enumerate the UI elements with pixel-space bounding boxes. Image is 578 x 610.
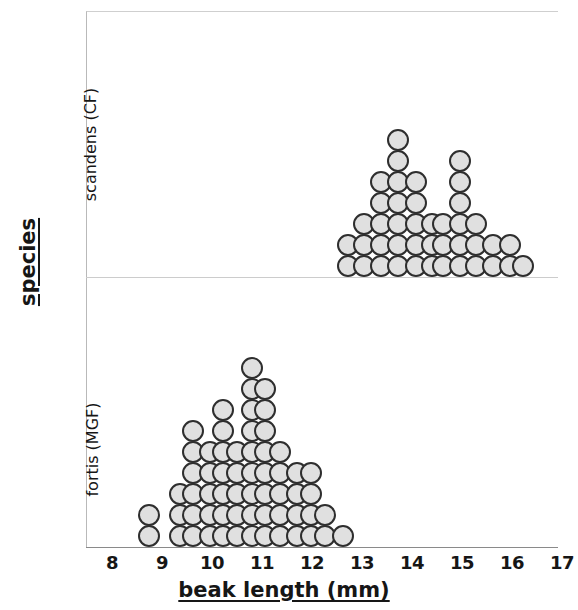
x-tick-8: 8 bbox=[92, 552, 132, 573]
y-tick-label-scandens: scandens (CF) bbox=[81, 75, 100, 215]
data-dot bbox=[332, 525, 354, 547]
data-dot bbox=[512, 255, 534, 277]
data-dot bbox=[387, 150, 409, 172]
data-dot bbox=[405, 171, 427, 193]
data-dot bbox=[465, 213, 487, 235]
data-dot bbox=[241, 357, 263, 379]
data-dot bbox=[254, 378, 276, 400]
data-dot bbox=[138, 525, 160, 547]
data-dot bbox=[212, 399, 234, 421]
data-dot bbox=[300, 483, 322, 505]
y-axis-title-container: species bbox=[0, 190, 58, 350]
x-tick-17: 17 bbox=[542, 552, 578, 573]
data-dot bbox=[405, 192, 427, 214]
data-dot bbox=[212, 420, 234, 442]
x-tick-12: 12 bbox=[292, 552, 332, 573]
y-axis-title: species bbox=[16, 182, 40, 342]
x-tick-14: 14 bbox=[392, 552, 432, 573]
x-tick-16: 16 bbox=[492, 552, 532, 573]
y-tick-label-fortis: fortis (MGF) bbox=[83, 385, 102, 515]
data-dot bbox=[387, 129, 409, 151]
data-dot bbox=[499, 234, 521, 256]
data-dot bbox=[254, 399, 276, 421]
data-dot bbox=[269, 441, 291, 463]
y-axis-tick-labels: scandens (CF) fortis (MGF) bbox=[62, 0, 86, 547]
data-dot bbox=[449, 150, 471, 172]
x-tick-15: 15 bbox=[442, 552, 482, 573]
data-dot bbox=[449, 192, 471, 214]
x-tick-11: 11 bbox=[242, 552, 282, 573]
x-tick-10: 10 bbox=[192, 552, 232, 573]
data-dot bbox=[449, 171, 471, 193]
data-dot bbox=[254, 420, 276, 442]
x-tick-9: 9 bbox=[142, 552, 182, 573]
data-dot bbox=[300, 462, 322, 484]
x-tick-13: 13 bbox=[342, 552, 382, 573]
data-dot bbox=[314, 504, 336, 526]
x-axis-title: beak length (mm) bbox=[0, 578, 568, 602]
data-dot bbox=[138, 504, 160, 526]
data-dot bbox=[182, 420, 204, 442]
